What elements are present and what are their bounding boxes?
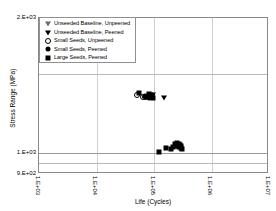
legend-item-label: Unseeded Baseline, Peened bbox=[54, 30, 124, 36]
legend-item: Unseeded Baseline, Unpeened bbox=[40, 20, 135, 28]
legend-marker-circle-open-icon bbox=[42, 37, 54, 45]
legend-item: Small Seeds, Peened bbox=[40, 45, 135, 53]
x-tick-label: 1.E+04 bbox=[92, 176, 98, 195]
x-tick-label: 1.E+03 bbox=[35, 176, 41, 195]
legend-item-label: Small Seeds, Unpeened bbox=[54, 38, 113, 44]
scatter-chart: 2.E+031.E+039.E+02 1.E+031.E+041.E+051.E… bbox=[0, 0, 276, 211]
y-axis-title: Stress Range (MPa) bbox=[10, 58, 17, 138]
legend-item: Large Seeds, Peened bbox=[40, 54, 135, 62]
x-tick-label: 1.E+06 bbox=[207, 176, 213, 195]
chart-legend: Unseeded Baseline, UnpeenedUnseeded Base… bbox=[39, 17, 136, 63]
legend-marker-circle-filled-icon bbox=[42, 45, 54, 53]
legend-marker-square-filled-icon bbox=[42, 54, 54, 62]
legend-item-label: Large Seeds, Peened bbox=[54, 55, 107, 61]
legend-item-label: Small Seeds, Peened bbox=[54, 47, 107, 53]
legend-item: Small Seeds, Unpeened bbox=[40, 37, 135, 45]
legend-marker-triangle-down-filled-icon bbox=[42, 29, 54, 37]
legend-marker-triangle-down-open-icon bbox=[42, 20, 54, 28]
x-axis-title: Life (Cycles) bbox=[38, 199, 268, 206]
legend-item-label: Unseeded Baseline, Unpeened bbox=[54, 21, 130, 27]
x-tick-label: 1.E+07 bbox=[265, 176, 271, 195]
legend-item: Unseeded Baseline, Peened bbox=[40, 28, 135, 36]
x-tick-label: 1.E+05 bbox=[150, 176, 156, 195]
